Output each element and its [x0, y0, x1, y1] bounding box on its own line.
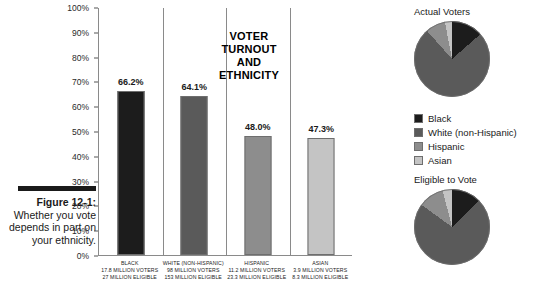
bar-value-label: 64.1% [181, 82, 207, 92]
legend-label: Black [428, 113, 451, 124]
category-stat: 8.3 MILLION ELIGIBLE [289, 274, 353, 281]
category-stat: 98 MILLION VOTERS [162, 267, 226, 274]
legend-swatch-icon [414, 114, 423, 123]
pie-eligible-to-vote-graphic [414, 189, 490, 265]
x-axis-labels: BLACK17.8 MILLION VOTERS27 MILLION ELIGI… [98, 260, 352, 304]
category-name: WHITE (NON-HISPANIC) [162, 260, 226, 267]
y-axis-tick-label: 80% [72, 53, 89, 63]
legend-swatch-icon [414, 128, 423, 137]
bar-cell: 47.3% [290, 8, 354, 255]
y-axis-tick-label: 40% [72, 152, 89, 162]
y-axis-tick-label: 10% [72, 226, 89, 236]
bar [117, 91, 144, 255]
legend-swatch-icon [414, 156, 423, 165]
x-axis-category-label: BLACK17.8 MILLION VOTERS27 MILLION ELIGI… [98, 260, 162, 281]
y-axis-tick-label: 60% [72, 102, 89, 112]
y-axis-tick-label: 70% [72, 77, 89, 87]
legend-item: Hispanic [414, 139, 517, 153]
x-axis-category-label: HISPANIC11.2 MILLION VOTERS23.3 MILLION … [225, 260, 289, 281]
bar [308, 138, 335, 255]
pie-chart-eligible-to-vote: Eligible to Vote [414, 174, 490, 265]
bar-cell: 66.2% [99, 8, 163, 255]
category-name: ASIAN [289, 260, 353, 267]
y-axis-tick-label: 30% [72, 177, 89, 187]
pie-title-actual-voters: Actual Voters [414, 6, 490, 17]
legend-item: Black [414, 111, 517, 125]
pie-title-eligible-to-vote: Eligible to Vote [414, 174, 490, 185]
legend: BlackWhite (non-Hispanic)HispanicAsian [414, 111, 517, 167]
legend-item: White (non-Hispanic) [414, 125, 517, 139]
bar-value-label: 47.3% [308, 124, 334, 134]
category-name: BLACK [98, 260, 162, 267]
y-axis-tick-label: 100% [67, 3, 89, 13]
y-axis-tick-label: 20% [72, 201, 89, 211]
legend-item: Asian [414, 153, 517, 167]
legend-label: Hispanic [428, 141, 464, 152]
category-stat: 27 MILLION ELIGIBLE [98, 274, 162, 281]
chart-title: VOTER TURNOUT AND ETHNICITY [210, 30, 288, 82]
bar [181, 96, 208, 255]
category-stat: 153 MILLION ELIGIBLE [162, 274, 226, 281]
y-axis-tick-label: 50% [72, 127, 89, 137]
pie-chart-actual-voters: Actual Voters [414, 6, 490, 97]
x-axis-category-label: ASIAN3.9 MILLION VOTERS8.3 MILLION ELIGI… [289, 260, 353, 281]
y-axis: 100%90%80%70%60%50%40%30%20%10%0% [58, 8, 94, 256]
bar-value-label: 48.0% [245, 122, 271, 132]
y-axis-tick-label: 0% [77, 251, 89, 261]
category-stat: 11.2 MILLION VOTERS [225, 267, 289, 274]
bar-value-label: 66.2% [118, 77, 144, 87]
category-stat: 17.8 MILLION VOTERS [98, 267, 162, 274]
y-axis-tick-label: 90% [72, 28, 89, 38]
bar [244, 136, 271, 255]
bar-chart: 100%90%80%70%60%50%40%30%20%10%0% 66.2%6… [58, 8, 358, 304]
category-stat: 23.3 MILLION ELIGIBLE [225, 274, 289, 281]
legend-label: Asian [428, 155, 452, 166]
x-axis-category-label: WHITE (NON-HISPANIC)98 MILLION VOTERS153… [162, 260, 226, 281]
legend-swatch-icon [414, 142, 423, 151]
category-name: HISPANIC [225, 260, 289, 267]
category-stat: 3.9 MILLION VOTERS [289, 267, 353, 274]
legend-label: White (non-Hispanic) [428, 127, 517, 138]
pie-actual-voters-graphic [414, 21, 490, 97]
